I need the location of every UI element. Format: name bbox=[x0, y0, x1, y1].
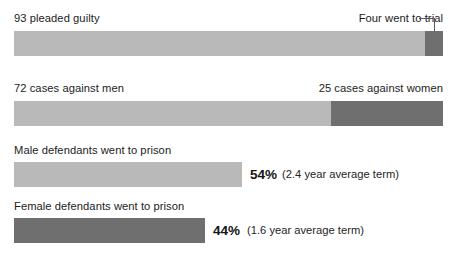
bar-segment-female-prison bbox=[14, 218, 205, 243]
row-label-pleaded-guilty: 93 pleaded guilty bbox=[14, 12, 100, 25]
average-term-note-male: (2.4 year average term) bbox=[282, 162, 399, 187]
chart-row-case-outcomes: 93 pleaded guilty Four went to trial bbox=[0, 0, 456, 70]
row-label-cases-against-women: 25 cases against women bbox=[319, 82, 443, 95]
row-label-male-defendants-prison: Male defendants went to prison bbox=[14, 144, 171, 157]
bar-segment-went-to-trial bbox=[425, 31, 443, 56]
bar-segment-pleaded-guilty bbox=[14, 31, 425, 56]
bar-track-cases-by-gender bbox=[14, 101, 443, 126]
prosecution-outcomes-bar-chart: 93 pleaded guilty Four went to trial 72 … bbox=[0, 0, 456, 263]
bar-segment-cases-against-men bbox=[14, 101, 331, 126]
annotation-female-prison: 44% (1.6 year average term) bbox=[213, 218, 364, 243]
average-term-note-female: (1.6 year average term) bbox=[247, 218, 364, 243]
annotation-male-prison: 54% (2.4 year average term) bbox=[250, 162, 399, 187]
chart-row-cases-by-gender: 72 cases against men 25 cases against wo… bbox=[0, 70, 456, 140]
bar-track-female-prison bbox=[14, 218, 205, 243]
row-label-went-to-trial: Four went to trial bbox=[359, 12, 443, 25]
bar-track-male-prison bbox=[14, 162, 242, 187]
percent-value-male-prison: 54% bbox=[250, 162, 277, 187]
bar-segment-cases-against-women bbox=[331, 101, 443, 126]
bar-track-case-outcomes bbox=[14, 31, 443, 56]
row-label-female-defendants-prison: Female defendants went to prison bbox=[14, 200, 184, 213]
bar-segment-male-prison bbox=[14, 162, 242, 187]
percent-value-female-prison: 44% bbox=[213, 218, 240, 243]
row-label-cases-against-men: 72 cases against men bbox=[14, 82, 124, 95]
